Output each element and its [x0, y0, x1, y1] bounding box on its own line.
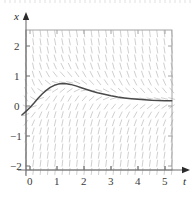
- direction-field-figure: x t 012345 210−1−2: [0, 0, 196, 199]
- slope-field: [23, 30, 175, 175]
- x-tick-label: 2: [81, 176, 87, 187]
- y-tick-label: 0: [14, 101, 20, 112]
- y-tick-label: 1: [14, 71, 20, 82]
- y-tick-label: −1: [10, 131, 22, 142]
- y-tick-label: −2: [10, 161, 22, 172]
- x-tick-label: 0: [27, 176, 33, 187]
- x-tick-label: 1: [54, 176, 60, 187]
- plot-canvas: [0, 0, 196, 199]
- solution-curve: [22, 84, 172, 116]
- y-axis-label: x: [14, 11, 19, 22]
- y-tick-label: 2: [14, 41, 20, 52]
- x-axis-label: t: [183, 176, 186, 187]
- x-tick-label: 3: [108, 176, 114, 187]
- x-tick-label: 4: [135, 176, 141, 187]
- x-tick-label: 5: [162, 176, 168, 187]
